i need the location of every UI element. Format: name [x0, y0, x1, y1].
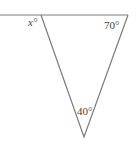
triangle-diagram: x° 70° 40° — [0, 0, 136, 144]
angle-label-70: 70° — [104, 20, 119, 31]
angle-label-40: 40° — [77, 106, 92, 117]
angle-label-x: x° — [28, 17, 37, 28]
triangle-sides — [41, 15, 128, 137]
